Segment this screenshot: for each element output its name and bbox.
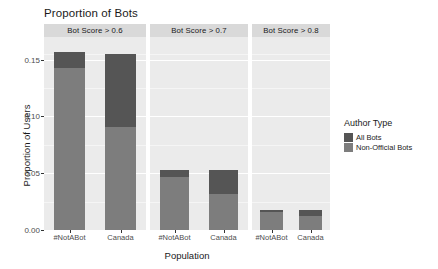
panel-plot-area: [252, 37, 330, 230]
bar-segment-all-bots[interactable]: [209, 170, 238, 194]
x-axis-tick-label: Canada: [210, 233, 236, 242]
gridline-minor: [252, 202, 330, 203]
y-axis-tick-label: 0.15: [24, 55, 40, 64]
gridline-major: [150, 116, 248, 117]
gridline-major: [150, 60, 248, 61]
x-axis-tick-label: #NotABot: [158, 233, 190, 242]
bar-segment-non-official-bots[interactable]: [260, 212, 283, 230]
stacked-bar[interactable]: [209, 170, 238, 230]
legend-title: Author Type: [344, 118, 412, 128]
panel-plot-area: [44, 37, 146, 230]
legend-item[interactable]: Non-Official Bots: [344, 143, 412, 152]
x-axis-tick-mark: [224, 230, 225, 233]
gridline-minor: [252, 145, 330, 146]
stacked-bar[interactable]: [160, 170, 189, 230]
legend-items: All BotsNon-Official Bots: [344, 133, 412, 152]
y-axis-tick-label: 0.05: [24, 169, 40, 178]
x-axis-title: Population: [44, 250, 330, 261]
legend-item-label: All Bots: [356, 133, 381, 142]
facet-panel: Bot Score > 0.7: [150, 24, 248, 230]
legend-item-label: Non-Official Bots: [356, 143, 412, 152]
gridline-minor: [150, 88, 248, 89]
x-axis-tick-label: #NotABot: [53, 233, 85, 242]
y-axis-tick-labels: 0.000.050.100.15: [18, 0, 40, 269]
stacked-bar[interactable]: [299, 210, 322, 230]
bar-segment-non-official-bots[interactable]: [105, 127, 136, 230]
gridline-minor: [252, 54, 330, 55]
legend-item[interactable]: All Bots: [344, 133, 412, 142]
bar-segment-all-bots[interactable]: [105, 54, 136, 127]
bar-segment-non-official-bots[interactable]: [54, 68, 85, 230]
facet-strip-label: Bot Score > 0.8: [263, 26, 318, 35]
legend: Author Type All BotsNon-Official Bots: [344, 118, 412, 153]
stacked-bar[interactable]: [260, 210, 283, 230]
stacked-bar[interactable]: [54, 52, 85, 230]
x-axis-tick-mark: [175, 230, 176, 233]
facet-strip-label: Bot Score > 0.7: [171, 26, 226, 35]
gridline-minor: [252, 88, 330, 89]
legend-swatch: [344, 143, 353, 152]
chart-container: Proportion of Bots Proportion of Users P…: [0, 0, 438, 269]
gridline-major: [252, 60, 330, 61]
x-axis-tick-mark: [272, 230, 273, 233]
chart-title: Proportion of Bots: [44, 7, 138, 19]
x-axis-tick-mark: [70, 230, 71, 233]
bar-segment-all-bots[interactable]: [299, 210, 322, 217]
x-axis-tick-label: #NotABot: [255, 233, 287, 242]
x-axis-tick-label: Canada: [297, 233, 323, 242]
gridline-major: [252, 116, 330, 117]
gridline-major: [252, 173, 330, 174]
facet-strip-label: Bot Score > 0.6: [67, 26, 122, 35]
panel-plot-area: [150, 37, 248, 230]
facet-panel: Bot Score > 0.8: [252, 24, 330, 230]
facet-strip: Bot Score > 0.8: [252, 24, 330, 37]
y-axis-tick-label: 0.10: [24, 112, 40, 121]
facet-strip: Bot Score > 0.7: [150, 24, 248, 37]
legend-swatch: [344, 133, 353, 142]
bar-segment-all-bots[interactable]: [160, 170, 189, 177]
facet-strip: Bot Score > 0.6: [44, 24, 146, 37]
y-axis-tick-label: 0.00: [24, 226, 40, 235]
bar-segment-non-official-bots[interactable]: [160, 177, 189, 230]
gridline-minor: [150, 145, 248, 146]
gridline-minor: [150, 54, 248, 55]
bar-segment-non-official-bots[interactable]: [209, 194, 238, 230]
x-axis-tick-label: Canada: [107, 233, 133, 242]
stacked-bar[interactable]: [105, 54, 136, 230]
x-axis-tick-mark: [311, 230, 312, 233]
bar-segment-non-official-bots[interactable]: [299, 216, 322, 230]
facet-panel: Bot Score > 0.6: [44, 24, 146, 230]
y-axis-tick-mark: [41, 230, 44, 231]
x-axis-tick-mark: [121, 230, 122, 233]
bar-segment-all-bots[interactable]: [54, 52, 85, 68]
